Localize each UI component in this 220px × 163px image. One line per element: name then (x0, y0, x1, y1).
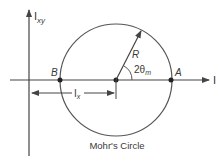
angle-label-main: 2θ (134, 64, 146, 75)
angle-arc (124, 66, 132, 80)
radius-label: R (132, 49, 139, 60)
angle-label-sub: m (145, 69, 151, 76)
horizontal-axis-label: I (213, 74, 216, 86)
vertical-axis-label: Ixy (34, 10, 46, 25)
dimension-label-sub: x (76, 93, 81, 100)
figure-caption: Mohr's Circle (89, 140, 144, 151)
mohrs-circle-diagram: I Ixy B A R 2θm Ix (0, 0, 220, 163)
point-b-dot (58, 78, 63, 83)
point-a-label: A (174, 67, 182, 78)
point-a-dot (169, 78, 174, 83)
angle-label: 2θm (134, 64, 151, 76)
dimension-label: Ix (74, 88, 81, 100)
vertical-axis-label-sub: xy (36, 16, 46, 25)
point-b-label: B (51, 67, 58, 78)
